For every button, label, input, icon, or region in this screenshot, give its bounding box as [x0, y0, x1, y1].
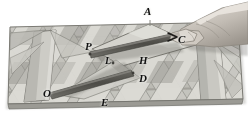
point-label-P: P — [85, 41, 92, 52]
woven-lattice-illustration — [0, 0, 248, 122]
figure-container: A C P L H D O E — [0, 0, 248, 122]
point-label-L: L — [105, 56, 111, 66]
point-label-A: A — [144, 6, 151, 17]
node-P — [89, 53, 92, 56]
point-label-C: C — [178, 34, 185, 45]
point-label-H: H — [139, 55, 148, 66]
point-label-O: O — [43, 88, 51, 99]
node-L — [112, 62, 115, 65]
point-label-D: D — [139, 73, 147, 84]
node-D — [132, 72, 135, 75]
point-label-E: E — [101, 97, 108, 108]
